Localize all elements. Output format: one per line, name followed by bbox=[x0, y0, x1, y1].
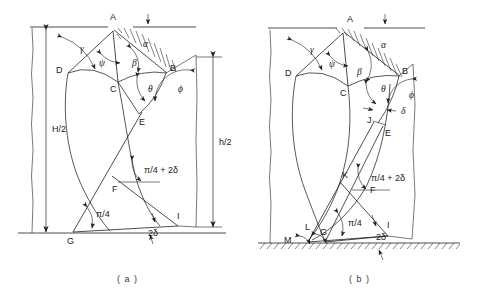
angle-arc-phi-a bbox=[155, 70, 190, 101]
label-H-over-2-a: H/2 bbox=[52, 124, 66, 134]
figure-root: A B C D E F G I α γ ψ β θ ϕ π/4 + 2δ π/4… bbox=[0, 0, 480, 301]
arc-D-C-b bbox=[296, 73, 348, 86]
label-point-G-b: G bbox=[320, 227, 327, 237]
logspiral-C-F-I-a bbox=[118, 82, 160, 226]
label-point-D-a: D bbox=[56, 65, 63, 75]
angle-arc-pi4-a bbox=[87, 207, 92, 228]
label-phi-b: ϕ bbox=[409, 90, 414, 100]
line-F-I-a bbox=[112, 176, 178, 226]
angle-arrow-delta-left-b bbox=[363, 108, 373, 110]
label-point-A-b: A bbox=[347, 14, 353, 24]
angle-arc-gamma-a bbox=[62, 37, 95, 69]
label-point-I-a: I bbox=[177, 211, 180, 221]
label-alpha-b: α bbox=[381, 40, 387, 50]
logspiral-D-G-b bbox=[292, 76, 325, 241]
label-point-G-a: G bbox=[67, 236, 74, 246]
label-point-C-b: C bbox=[340, 88, 347, 98]
angle-arrow-2d-top-a bbox=[152, 213, 155, 222]
caption-b: ( b ) bbox=[349, 274, 370, 284]
line-A-C-b bbox=[343, 33, 348, 86]
label-theta-b: θ bbox=[381, 84, 386, 94]
line-A-D-b bbox=[296, 33, 343, 76]
line-A-D-a bbox=[68, 31, 113, 73]
diagram-a: A B C D E F G I α γ ψ β θ ϕ π/4 + 2δ π/4… bbox=[18, 12, 232, 284]
angle-arc-pi4-2d-a bbox=[132, 160, 141, 181]
label-point-F-a: F bbox=[112, 184, 118, 194]
label-phi-a: ϕ bbox=[178, 84, 183, 94]
label-2delta-a: 2δ bbox=[148, 228, 158, 238]
label-beta-a: β bbox=[131, 58, 137, 68]
diagram-b: A B C D E F G I J K L M α γ ψ β θ ϕ δ π/… bbox=[258, 14, 460, 284]
label-point-B-a: B bbox=[170, 63, 176, 73]
caption-a: ( a ) bbox=[117, 274, 138, 284]
label-point-D-b: D bbox=[285, 68, 292, 78]
line-J-E-b bbox=[373, 121, 386, 125]
label-beta-b: β bbox=[356, 67, 362, 77]
label-point-E-a: E bbox=[139, 117, 145, 127]
label-point-K-b: K bbox=[342, 170, 348, 180]
right-boundary-a bbox=[196, 55, 197, 227]
left-boundary-b bbox=[270, 30, 272, 243]
slope-face-AB-a bbox=[114, 30, 167, 73]
label-gamma-b: γ bbox=[310, 45, 314, 55]
label-gamma-a: γ bbox=[80, 44, 84, 54]
angle-arc-theta-b bbox=[366, 84, 376, 104]
label-psi-a: ψ bbox=[99, 58, 106, 68]
label-point-C-a: C bbox=[110, 84, 117, 94]
label-pi4-b: π/4 bbox=[348, 218, 362, 228]
label-point-L-b: L bbox=[305, 222, 310, 232]
angle-arrow-ground-b bbox=[379, 250, 383, 260]
angle-arc-theta-a bbox=[137, 77, 145, 101]
label-point-M-b: M bbox=[284, 235, 292, 245]
edge-I-to-right-b bbox=[388, 236, 412, 239]
arc-D-C-a bbox=[68, 70, 118, 82]
line-M-up-b bbox=[308, 122, 374, 242]
edge-I-to-right-a bbox=[178, 226, 196, 227]
angle-arrow-2d-b bbox=[372, 215, 376, 226]
line-G-I-a bbox=[73, 226, 178, 232]
angle-arc-pi4-2d-b bbox=[358, 168, 366, 189]
label-2delta-b: 2δ bbox=[376, 232, 386, 242]
label-point-J-b: J bbox=[367, 115, 372, 125]
label-pi4-a: π/4 bbox=[96, 209, 110, 219]
angle-arc-pi4-b bbox=[338, 213, 343, 236]
arc-C-B-b bbox=[348, 75, 399, 86]
label-delta-b: δ bbox=[401, 106, 406, 116]
line-A-C-a bbox=[113, 31, 118, 82]
label-alpha-a: α bbox=[143, 39, 149, 49]
left-boundary-a bbox=[32, 28, 34, 233]
slope-hatching-a bbox=[117, 28, 176, 72]
angle-arrow-delta-right-b bbox=[387, 110, 396, 111]
label-point-E-b: E bbox=[385, 128, 391, 138]
label-theta-a: θ bbox=[148, 84, 153, 94]
logspiral-J-L-b bbox=[312, 84, 390, 240]
label-h-over-2-a: h/2 bbox=[219, 137, 232, 147]
label-point-I-b: I bbox=[387, 220, 390, 230]
figure-svg: A B C D E F G I α γ ψ β θ ϕ π/4 + 2δ π/4… bbox=[0, 0, 480, 301]
arc-C-B-a bbox=[118, 72, 166, 82]
logspiral-C-K-M-b bbox=[308, 86, 350, 241]
label-point-F-b: F bbox=[370, 185, 376, 195]
label-pi4-2delta-a: π/4 + 2δ bbox=[144, 165, 178, 175]
label-pi4-2delta-b: π/4 + 2δ bbox=[371, 173, 405, 183]
label-point-A-a: A bbox=[110, 12, 116, 22]
label-point-B-b: B bbox=[402, 66, 408, 76]
